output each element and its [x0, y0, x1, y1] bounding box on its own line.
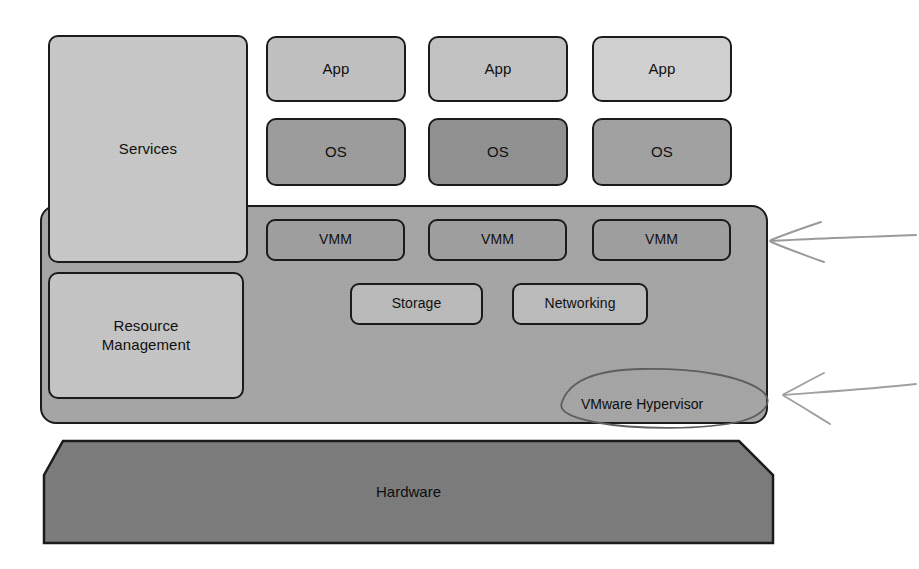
os-box-2[interactable]: OS	[428, 118, 568, 186]
storage-box[interactable]: Storage	[350, 283, 483, 325]
os-label-3: OS	[651, 143, 673, 162]
vmm-box-1[interactable]: VMM	[266, 219, 405, 261]
app-label-2: App	[485, 60, 512, 79]
resource-management-panel[interactable]: Resource Management	[48, 272, 244, 399]
hypervisor-label: VMware Hypervisor	[581, 396, 703, 412]
vmm-box-3[interactable]: VMM	[592, 219, 731, 261]
networking-box[interactable]: Networking	[512, 283, 648, 325]
vmm-label-2: VMM	[481, 231, 514, 249]
os-label-1: OS	[325, 143, 347, 162]
hardware-label: Hardware	[376, 483, 441, 500]
diagram-canvas: VMware Hypervisor Services Resource Mana…	[0, 0, 919, 569]
services-panel[interactable]: Services	[48, 35, 248, 263]
resource-management-label-line1: Resource	[114, 317, 179, 336]
os-box-3[interactable]: OS	[592, 118, 732, 186]
os-label-2: OS	[487, 143, 509, 162]
vmm-label-3: VMM	[645, 231, 678, 249]
app-label-3: App	[649, 60, 676, 79]
app-box-1[interactable]: App	[266, 36, 406, 102]
vmm-box-2[interactable]: VMM	[428, 219, 567, 261]
storage-label: Storage	[392, 295, 442, 313]
annotation-arrow-hypervisor-label	[780, 368, 919, 430]
resource-management-label-line2: Management	[102, 336, 191, 355]
networking-label: Networking	[544, 295, 615, 313]
app-label-1: App	[323, 60, 350, 79]
annotation-arrow-vmm-row	[766, 210, 919, 280]
hardware-block[interactable]: Hardware	[44, 441, 773, 542]
app-box-3[interactable]: App	[592, 36, 732, 102]
vmm-label-1: VMM	[319, 231, 352, 249]
services-label: Services	[119, 140, 177, 159]
app-box-2[interactable]: App	[428, 36, 568, 102]
os-box-1[interactable]: OS	[266, 118, 406, 186]
